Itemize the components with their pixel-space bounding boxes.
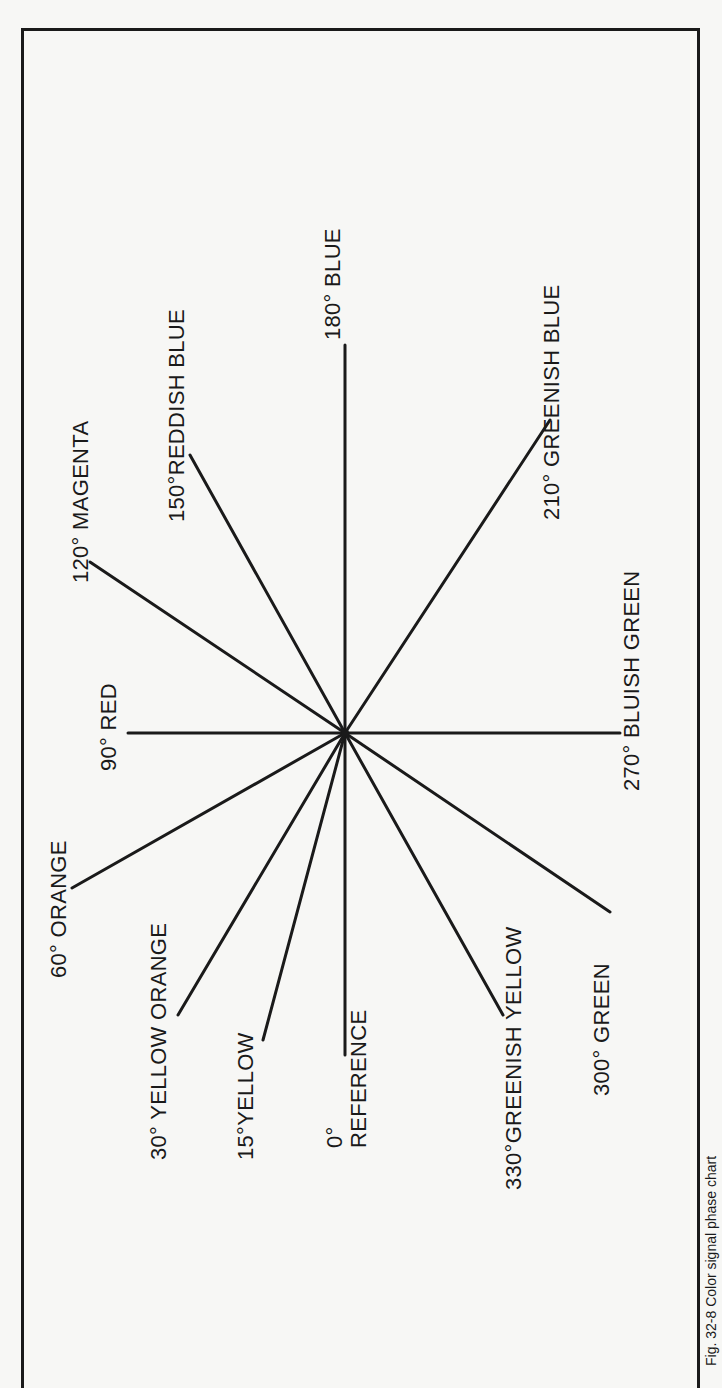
label-330-greenish-yellow: 330°GREENISH YELLOW: [503, 926, 525, 1190]
label-90-red: 90° RED: [98, 683, 120, 771]
label-300-green: 300° GREEN: [591, 963, 613, 1096]
label-270-bluish-green: 270° BLUISH GREEN: [621, 570, 643, 791]
label-60-orange: 60° ORANGE: [48, 840, 70, 978]
label-180-blue: 180° BLUE: [322, 228, 344, 340]
spoke-15: [263, 733, 345, 1040]
spoke-300: [345, 733, 610, 912]
label-0-reference: 0° REFERENCE: [323, 1010, 371, 1148]
label-150-reddish-blue: 150°REDDISH BLUE: [166, 309, 188, 522]
label-30-yellow-orange: 30° YELLOW ORANGE: [148, 923, 170, 1160]
label-120-magenta: 120° MAGENTA: [70, 421, 92, 583]
spoke-30: [178, 733, 345, 1015]
spoke-210: [345, 420, 550, 733]
center-point: [341, 729, 349, 737]
label-15-yellow: 15°YELLOW: [235, 1032, 257, 1160]
spoke-150: [190, 455, 345, 733]
spoke-330: [345, 733, 503, 1015]
spoke-120: [90, 562, 345, 733]
label-210-greenish-blue: 210° GREENISH BLUE: [541, 284, 563, 520]
figure-caption: Fig. 32-8 Color signal phase chart: [704, 1156, 718, 1366]
label-0-text: REFERENCE: [347, 1010, 371, 1148]
label-0-angle: 0°: [323, 1010, 347, 1148]
